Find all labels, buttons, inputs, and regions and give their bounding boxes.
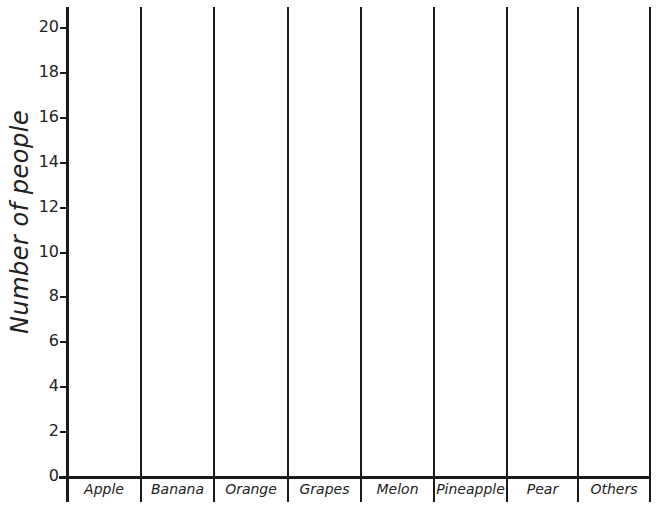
category-divider-line <box>649 7 651 502</box>
x-category-label: Others <box>578 481 650 501</box>
category-divider-line <box>577 7 579 502</box>
category-divider-line <box>140 7 142 502</box>
x-category-label: Pineapple <box>434 481 507 501</box>
y-tick-label: 2 <box>19 421 59 440</box>
bar-chart: Number of people 02468101214161820 Apple… <box>0 0 668 512</box>
category-divider-line <box>213 7 215 502</box>
x-category-label: Melon <box>361 481 434 501</box>
y-axis-line <box>66 7 69 502</box>
x-category-label: Orange <box>214 481 288 501</box>
x-category-label: Pear <box>507 481 578 501</box>
category-divider-line <box>287 7 289 502</box>
y-tick-label: 12 <box>19 197 59 216</box>
y-tick-label: 14 <box>19 152 59 171</box>
category-divider-line <box>360 7 362 502</box>
y-tick-label: 20 <box>19 17 59 36</box>
x-axis-line <box>59 476 651 479</box>
x-category-label: Banana <box>141 481 214 501</box>
y-tick-label: 4 <box>19 376 59 395</box>
y-tick-label: 0 <box>19 466 59 485</box>
y-tick-label: 10 <box>19 242 59 261</box>
x-category-label: Grapes <box>288 481 361 501</box>
y-tick-label: 18 <box>19 62 59 81</box>
y-tick-label: 16 <box>19 107 59 126</box>
y-tick-label: 8 <box>19 286 59 305</box>
x-category-label: Apple <box>67 481 141 501</box>
y-tick-label: 6 <box>19 331 59 350</box>
category-divider-line <box>433 7 435 502</box>
category-divider-line <box>506 7 508 502</box>
